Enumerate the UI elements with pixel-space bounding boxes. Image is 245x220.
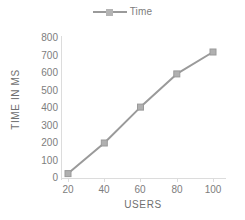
data-point [138,104,144,110]
series-time [0,0,245,220]
data-point [101,140,107,146]
data-point [174,71,180,77]
data-point [65,171,71,177]
series-line-time [68,52,213,174]
data-point [210,49,216,55]
line-chart: Time 800 700 600 500 400 300 200 100 0 2… [0,0,245,220]
